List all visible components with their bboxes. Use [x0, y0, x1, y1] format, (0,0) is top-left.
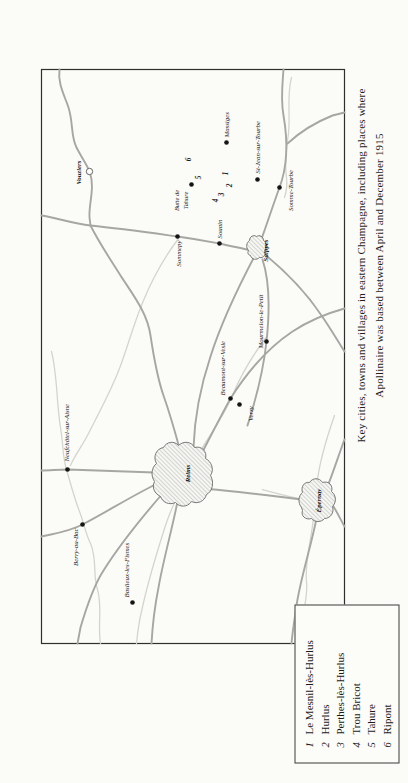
site-number-3: 3 — [217, 192, 225, 197]
label-beaumont-sur-vesle: Beaumont-sur-Vesle — [218, 340, 225, 395]
rivers — [51, 77, 334, 643]
legend-num-1: 1 — [303, 734, 314, 747]
label-souain: Souain — [215, 219, 222, 238]
site-number-1: 1 — [221, 171, 229, 175]
st-jean-dot — [255, 177, 260, 182]
legend-item-1: 1 Le Mesnil-lès-Hurlus — [302, 609, 318, 747]
site-number-4: 4 — [211, 198, 219, 203]
rotated-map-sheet: Vouziers Sommepy Souain Suippes Somme-To… — [0, 0, 408, 783]
label-reims: Reims — [183, 464, 190, 483]
verzy-dot — [237, 402, 242, 407]
caption-line-1: Key cities, towns and villages in easter… — [352, 77, 370, 453]
label-neufchatel-sur-aisne: Neufchâtel-sur-Aisne — [62, 403, 69, 462]
label-somme-tourbe: Somme-Tourbe — [286, 170, 293, 211]
legend-name-3: Perthes-lès-Hurlus — [333, 652, 345, 734]
road-reims-epernay — [200, 488, 301, 499]
river-suippe — [70, 238, 178, 465]
legend-name-5: Tahure — [364, 704, 376, 734]
site-numbers: 1 2 3 4 5 6 — [184, 157, 233, 203]
legend-num-6: 6 — [381, 734, 392, 747]
road-reims-neufchatel — [41, 469, 154, 472]
road-reims-west — [151, 496, 178, 643]
road-suippes-chalons — [262, 252, 344, 351]
label-verzy: Verzy — [246, 405, 253, 421]
roads — [41, 69, 344, 643]
label-mourmelon-le-petit: Mourmelon-le-Petit — [256, 293, 263, 349]
figure-caption: Key cities, towns and villages in easter… — [352, 77, 387, 453]
legend-item-3: 3 Perthes-lès-Hurlus — [333, 609, 349, 747]
tahure-site-dot — [189, 182, 194, 187]
road-epernay-southeast — [327, 439, 344, 486]
road-reims-fismes — [77, 492, 163, 643]
road-suippes-somme-tourbe — [259, 69, 286, 244]
label-suippes: Suippes — [261, 239, 268, 261]
legend-item-2: 2 Hurlus — [318, 609, 334, 747]
legend-num-3: 3 — [334, 734, 345, 747]
label-massiges: Massiges — [222, 111, 229, 138]
vouziers-circle-marker — [86, 168, 92, 174]
site-number-2: 2 — [225, 183, 233, 188]
river-aisne — [51, 351, 100, 643]
site-number-5: 5 — [194, 175, 202, 179]
massiges-dot — [224, 140, 229, 145]
road-reims-vouziers — [90, 225, 179, 448]
road-reims-berry-au-bac — [41, 483, 157, 536]
label-st-jean-sur-tourbe: St-Jean-sur-Tourbe — [253, 121, 260, 173]
map-border — [41, 69, 344, 643]
label-sommepy: Sommepy — [174, 239, 181, 266]
road-somme-tourbe-southeast — [287, 112, 344, 143]
legend-name-6: Ripont — [380, 704, 392, 734]
label-berry-au-bac: Berry-au-Bac — [71, 528, 78, 565]
label-butte-de: Butte de — [172, 189, 179, 210]
legend-num-4: 4 — [350, 734, 361, 747]
caption-line-2: Apollinaire was based between April and … — [370, 77, 388, 453]
legend-name-2: Hurlus — [318, 704, 330, 734]
legend-num-5: 5 — [365, 734, 376, 747]
sommepy-dot — [175, 234, 180, 239]
label-tahure-area: Tahure — [181, 191, 188, 209]
reims-city-area — [152, 442, 213, 506]
label-epernay: Épernay — [314, 487, 321, 513]
legend-box: 1 Le Mesnil-lès-Hurlus 2 Hurlus 3 Perthe… — [294, 604, 399, 763]
label-baslieux-les-fismes: Baslieux-les-Fismes — [122, 542, 129, 597]
legend-name-4: Trou Bricot — [349, 683, 361, 734]
legend-item-4: 4 Trou Bricot — [349, 609, 365, 747]
road-vouziers-east — [59, 69, 92, 225]
legend-num-2: 2 — [319, 734, 330, 747]
legend-name-1: Le Mesnil-lès-Hurlus — [302, 640, 314, 734]
scanned-book-page: Vouziers Sommepy Souain Suippes Somme-To… — [0, 0, 408, 783]
label-vouziers: Vouziers — [74, 160, 81, 184]
legend-item-6: 6 Ripont — [380, 609, 396, 747]
legend-item-5: 5 Tahure — [364, 609, 380, 747]
souain-dot — [217, 241, 222, 246]
site-number-6: 6 — [184, 157, 192, 161]
baslieux-dot — [130, 600, 135, 605]
